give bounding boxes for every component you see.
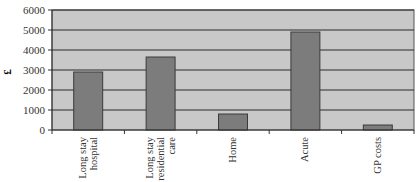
x-category-label: Acute <box>299 137 310 162</box>
y-tick-label: 4000 <box>23 44 46 56</box>
x-category-label: Home <box>227 137 238 163</box>
bar-acute <box>291 32 320 130</box>
y-tick-label: 5000 <box>23 24 46 36</box>
svg-text:Acute: Acute <box>299 137 310 162</box>
x-category-label: Long stayresidentialcare <box>144 136 177 180</box>
y-axis-label: £ <box>1 69 13 75</box>
svg-text:Home: Home <box>227 137 238 163</box>
svg-text:Long stay: Long stay <box>77 136 88 178</box>
plot-area <box>52 10 414 130</box>
svg-text:hospital: hospital <box>88 137 99 170</box>
svg-text:care: care <box>166 137 177 155</box>
y-tick-label: 2000 <box>23 84 46 96</box>
y-tick-label: 1000 <box>23 104 46 116</box>
svg-text:Long stay: Long stay <box>144 136 155 178</box>
bar-chart: 0100020003000400050006000 Long stayhospi… <box>0 0 420 182</box>
bar-gp-costs <box>363 125 392 130</box>
y-tick-label: 3000 <box>23 64 46 76</box>
bar-home <box>219 114 248 130</box>
y-axis: 0100020003000400050006000 <box>23 4 52 136</box>
x-category-label: Long stayhospital <box>77 136 99 178</box>
x-category-label: GP costs <box>372 137 383 174</box>
y-tick-label: 6000 <box>23 4 46 16</box>
bar-long-stay-hospital <box>74 72 103 130</box>
svg-text:residential: residential <box>155 137 166 181</box>
x-axis: Long stayhospitalLong stayresidentialcar… <box>52 130 414 181</box>
svg-text:GP costs: GP costs <box>372 137 383 174</box>
y-tick-label: 0 <box>40 124 46 136</box>
bar-long-stay-residential-care <box>146 57 175 130</box>
